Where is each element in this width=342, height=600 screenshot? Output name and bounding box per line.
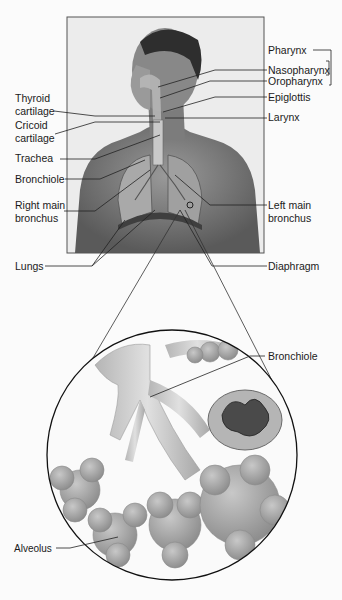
label-epiglottis: Epiglottis xyxy=(268,91,311,104)
label-inset-bronchiole: Bronchiole xyxy=(268,350,318,363)
label-bronchiole: Bronchiole xyxy=(15,173,65,186)
alveolar-sac-cross-section xyxy=(208,390,282,450)
label-right-main-bronchus-1: Right main xyxy=(15,199,65,212)
photo-panel xyxy=(67,17,264,253)
label-larynx: Larynx xyxy=(268,111,300,124)
label-thyroid-cartilage-2: cartilage xyxy=(15,105,55,118)
label-trachea: Trachea xyxy=(15,152,53,165)
label-oropharynx: Oropharynx xyxy=(268,75,323,88)
label-lungs: Lungs xyxy=(15,260,44,273)
label-left-main-bronchus-2: bronchus xyxy=(268,212,311,225)
label-right-main-bronchus-2: bronchus xyxy=(15,212,58,225)
label-alveolus: Alveolus xyxy=(14,542,52,555)
diagram-canvas xyxy=(0,0,342,600)
label-thyroid-cartilage-1: Thyroid xyxy=(15,92,50,105)
label-cricoid-cartilage-2: cartilage xyxy=(15,132,55,145)
label-cricoid-cartilage-1: Cricoid xyxy=(15,119,48,132)
label-pharynx: Pharynx xyxy=(268,44,307,57)
label-diaphragm: Diaphragm xyxy=(268,260,319,273)
label-left-main-bronchus-1: Left main xyxy=(268,199,311,212)
